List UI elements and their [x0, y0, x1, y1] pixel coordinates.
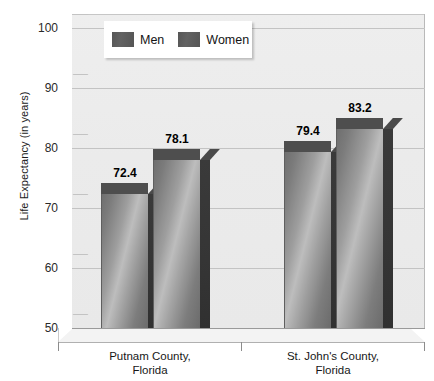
baseline-50 — [72, 328, 425, 329]
bar-face — [101, 194, 149, 328]
bar-face — [336, 129, 384, 328]
x-category-stjohns-line2: Florida — [263, 363, 403, 377]
legend: Men Women — [104, 21, 252, 58]
value-label-stjohns-men: 79.4 — [274, 124, 342, 138]
legend-label-women: Women — [206, 33, 249, 47]
y-tick-label-60: 60 — [22, 261, 58, 275]
bar-face — [284, 152, 332, 328]
bar-side-face — [383, 129, 393, 328]
x-category-label-stjohns: St. John's County, Florida — [263, 349, 403, 377]
bar-putnam-women — [153, 160, 200, 328]
bar-side-face — [200, 160, 210, 328]
legend-label-men: Men — [140, 33, 164, 47]
value-label-putnam-women: 78.1 — [143, 132, 211, 146]
y-tick-label-80: 80 — [22, 141, 58, 155]
legend-item-men: Men — [112, 32, 164, 47]
bar-stjohns-men — [284, 152, 331, 328]
bar-top-face-stjohns-women — [336, 118, 383, 129]
bar-top-face-stjohns-men — [284, 141, 331, 152]
x-tick-right — [424, 342, 425, 351]
y-tick-label-70: 70 — [22, 201, 58, 215]
x-tick-middle — [241, 342, 242, 351]
value-label-putnam-men: 72.4 — [91, 166, 159, 180]
life-expectancy-bar-chart: Life Expectancy (in years) 100 90 80 70 … — [0, 0, 434, 381]
bar-top-face-putnam-men — [101, 183, 148, 194]
y-axis-title: Life Expectancy (in years) — [18, 36, 30, 276]
legend-swatch-men — [112, 32, 134, 47]
floor-left-edge — [58, 328, 59, 342]
y-tick-label-90: 90 — [22, 81, 58, 95]
x-category-putnam-line2: Florida — [90, 363, 210, 377]
plot-area-right-border — [424, 14, 425, 328]
x-category-putnam-line1: Putnam County, — [90, 349, 210, 363]
value-label-stjohns-women: 83.2 — [326, 101, 394, 115]
bar-stjohns-women — [336, 129, 383, 328]
x-category-label-putnam: Putnam County, Florida — [90, 349, 210, 377]
bar-top-face-putnam-women — [153, 149, 200, 160]
legend-swatch-women — [178, 32, 200, 47]
y-tick-label-100: 100 — [22, 21, 58, 35]
bar-putnam-men — [101, 194, 148, 328]
plot-area-top-border — [72, 14, 425, 15]
x-category-stjohns-line1: St. John's County, — [263, 349, 403, 363]
bar-face — [153, 160, 201, 328]
y-tick-label-50: 50 — [22, 321, 58, 335]
plot-floor — [58, 329, 425, 342]
legend-item-women: Women — [178, 32, 249, 47]
x-tick-left — [58, 342, 59, 351]
gridline-90 — [72, 88, 425, 89]
